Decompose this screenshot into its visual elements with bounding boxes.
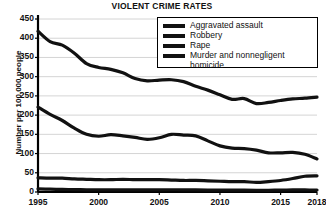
legend-item-3[interactable]: Murder and nonnegligent homicide: [163, 51, 285, 70]
x-tick-label: 2018: [308, 197, 326, 207]
x-tick-label: 2000: [89, 197, 108, 207]
x-tick-label: 1995: [29, 197, 48, 207]
legend-swatch-icon: [163, 54, 185, 58]
legend-swatch-icon: [163, 44, 185, 48]
series-line-3: [38, 189, 317, 190]
x-tick-label: 2015: [271, 197, 290, 207]
series-line-2: [38, 176, 317, 183]
legend-swatch-icon: [163, 34, 185, 38]
x-tick-label: 2010: [210, 197, 229, 207]
x-tick-label: 2005: [150, 197, 169, 207]
chart-legend: Aggravated assaultRobberyRapeMurder and …: [157, 17, 318, 68]
legend-swatch-icon: [163, 24, 185, 28]
legend-label: Murder and nonnegligent homicide: [190, 51, 285, 70]
